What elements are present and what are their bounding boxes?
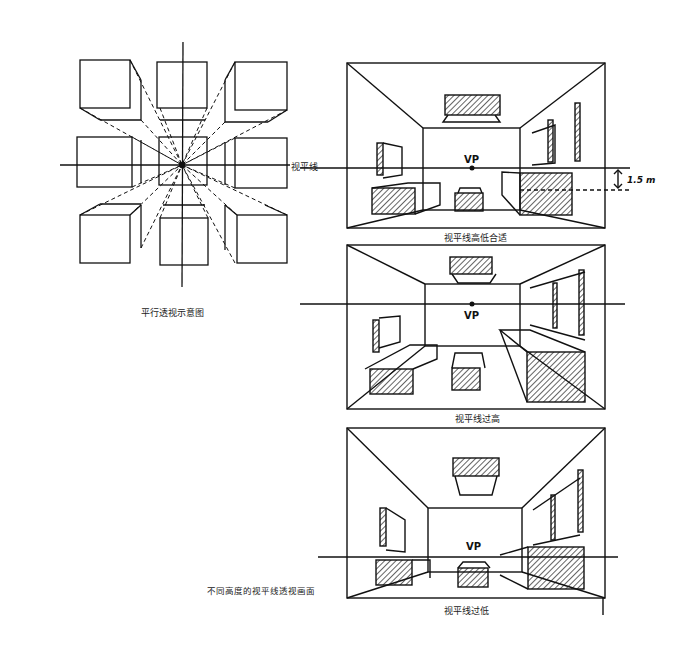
parallel-perspective-diagram [60, 42, 290, 287]
room-sketch-too-low [318, 428, 618, 615]
vp-label-too-low: VP [466, 541, 481, 552]
caption-too-low: 视平线过低 [444, 604, 489, 617]
group-caption: 不同高度的视平线透视画面 [207, 584, 315, 596]
vp-label-appropriate: VP [464, 154, 479, 165]
caption-parallel-perspective: 平行透视示意图 [141, 306, 204, 319]
vp-label-too-high: VP [464, 310, 479, 321]
horizon-label: 视平线 [291, 160, 318, 173]
room-sketch-appropriate [300, 63, 630, 228]
caption-appropriate: 视平线高低合适 [444, 231, 507, 244]
height-measurement: 1.5 m [627, 175, 655, 185]
room-sketch-too-high [300, 245, 625, 409]
perspective-sketch-canvas [0, 0, 691, 648]
caption-too-high: 视平线过高 [455, 412, 500, 425]
